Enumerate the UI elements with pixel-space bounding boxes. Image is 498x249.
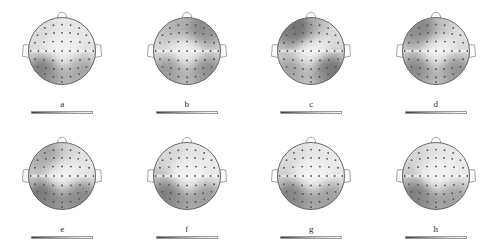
electrode-marker — [419, 33, 421, 35]
electrode-marker — [78, 27, 80, 29]
electrode-marker — [61, 175, 63, 177]
electrode-marker — [418, 198, 420, 200]
electrode-marker — [77, 192, 79, 194]
electrode-marker — [310, 32, 312, 34]
topoplot-svg-c — [267, 6, 355, 98]
electrode-marker — [292, 166, 294, 168]
electrode-marker — [302, 76, 304, 78]
electrode-marker — [194, 175, 196, 177]
electrode-marker — [293, 151, 295, 153]
electrode-marker — [61, 193, 63, 195]
electrode-marker — [418, 73, 420, 75]
electrode-marker — [301, 165, 303, 167]
electrode-marker — [186, 156, 188, 158]
electrode-marker — [427, 157, 429, 159]
electrode-marker — [326, 33, 328, 35]
electrode-marker — [435, 60, 437, 62]
electrode-marker — [417, 183, 419, 185]
electrode-marker — [302, 68, 304, 70]
scalp-map-a — [18, 6, 106, 98]
electrode-marker — [70, 76, 72, 78]
electrode-marker — [45, 67, 47, 69]
electrode-marker — [186, 24, 188, 26]
electrode-marker — [61, 165, 63, 167]
electrode-marker — [69, 68, 71, 70]
electrode-marker — [202, 157, 204, 159]
electrode-marker — [45, 33, 47, 35]
electrode-marker — [169, 198, 171, 200]
colorbar-gradient-e — [31, 236, 93, 239]
electrode-marker — [52, 41, 54, 43]
electrode-marker — [451, 33, 453, 35]
electrode-marker — [159, 42, 161, 44]
electrode-marker — [204, 41, 206, 43]
electrode-marker — [204, 183, 206, 185]
electrode-marker — [462, 183, 464, 185]
electrode-marker — [53, 157, 55, 159]
colorbar-e — [31, 236, 93, 239]
electrode-marker — [426, 76, 428, 78]
electrode-marker — [194, 157, 196, 159]
electrode-marker — [443, 76, 445, 78]
electrode-marker — [283, 183, 285, 185]
electrode-marker — [88, 183, 90, 185]
colorbar-b — [156, 111, 218, 114]
electrode-marker — [213, 166, 215, 168]
electrode-marker — [202, 67, 204, 69]
electrode-marker — [417, 166, 419, 168]
electrode-marker — [408, 166, 410, 168]
electrode-marker — [301, 41, 303, 43]
electrode-marker — [44, 198, 46, 200]
electrode-marker — [335, 159, 337, 161]
electrode-marker — [435, 175, 437, 177]
electrode-marker — [452, 73, 454, 75]
electrode-marker — [458, 175, 460, 177]
electrode-marker — [419, 50, 421, 52]
electrode-marker — [419, 67, 421, 69]
electrode-marker — [168, 183, 170, 185]
electrode-marker — [302, 50, 304, 52]
electrode-marker — [202, 175, 204, 177]
electrode-marker — [287, 175, 289, 177]
electrode-marker — [78, 73, 80, 75]
colorbar-gradient-a — [31, 111, 93, 114]
electrode-marker — [170, 192, 172, 194]
electrode-marker — [293, 198, 295, 200]
electrode-marker — [34, 166, 36, 168]
electrode-marker — [451, 192, 453, 194]
electrode-marker — [435, 148, 437, 150]
electrode-marker — [327, 27, 329, 29]
electrode-marker — [178, 193, 180, 195]
electrode-marker — [178, 68, 180, 70]
electrode-marker — [302, 193, 304, 195]
topoplot-svg-e — [18, 131, 106, 223]
electrode-marker — [337, 166, 339, 168]
electrode-marker — [294, 175, 296, 177]
electrode-marker — [444, 59, 446, 61]
electrode-marker — [435, 24, 437, 26]
electrode-marker — [161, 190, 163, 192]
electrode-marker — [61, 68, 63, 70]
electrode-marker — [37, 34, 39, 36]
electrode-marker — [194, 24, 196, 26]
electrode-marker — [69, 193, 71, 195]
electrode-marker — [204, 166, 206, 168]
electrode-marker — [427, 193, 429, 195]
electrode-marker — [410, 159, 412, 161]
electrode-marker — [162, 175, 164, 177]
electrode-marker — [444, 165, 446, 167]
electrode-marker — [310, 76, 312, 78]
electrode-marker — [88, 42, 90, 44]
electrode-marker — [61, 206, 63, 208]
electrode-marker — [194, 200, 196, 202]
electrode-marker — [334, 175, 336, 177]
electrode-marker — [37, 159, 39, 161]
electrode-marker — [70, 149, 72, 151]
electrode-marker — [287, 50, 289, 52]
colorbar-h — [405, 236, 467, 239]
electrode-marker — [443, 175, 445, 177]
electrode-marker — [452, 151, 454, 153]
electrode-marker — [443, 68, 445, 70]
electrode-marker — [194, 68, 196, 70]
electrode-marker — [178, 157, 180, 159]
